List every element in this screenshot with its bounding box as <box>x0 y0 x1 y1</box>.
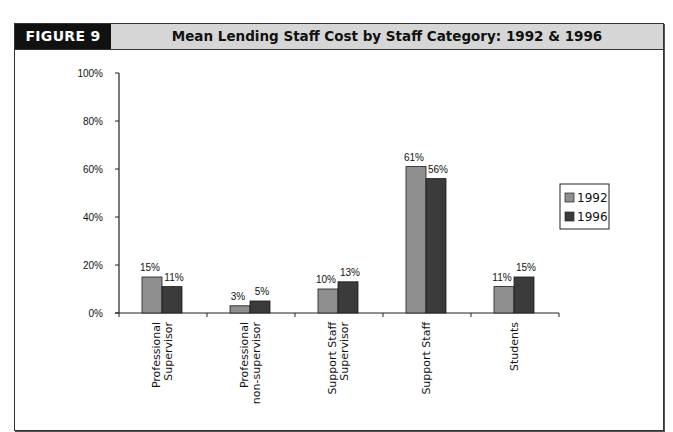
data-label: 3% <box>231 291 246 302</box>
y-tick-label: 80% <box>83 116 103 127</box>
bar-1992 <box>230 306 250 313</box>
legend-label-1996: 1996 <box>577 210 608 224</box>
legend-swatch-1992 <box>565 193 574 202</box>
x-category-label: Support Staff <box>420 322 433 395</box>
legend-swatch-1996 <box>565 212 574 221</box>
bar-1996 <box>426 179 446 313</box>
y-tick-label: 40% <box>83 212 103 223</box>
bar-1996 <box>250 301 270 313</box>
data-label: 15% <box>140 262 160 273</box>
svg-text:non-supervisor: non-supervisor <box>250 322 263 405</box>
svg-text:Support Staff: Support Staff <box>420 322 433 395</box>
x-category-label: Professionalnon-supervisor <box>238 322 263 405</box>
svg-text:Students: Students <box>508 322 521 371</box>
data-label: 15% <box>516 262 536 273</box>
bar-1996 <box>338 282 358 313</box>
x-category-label: Students <box>508 322 521 371</box>
data-label: 13% <box>340 267 360 278</box>
legend-label-1992: 1992 <box>577 191 608 205</box>
chart-category-labels: ProfessionalSupervisorProfessionalnon-su… <box>150 322 521 405</box>
bar-1996 <box>514 277 534 313</box>
chart-data-labels: 15%11%3%5%10%13%61%56%11%15% <box>140 152 536 302</box>
bar-1992 <box>142 277 162 313</box>
data-label: 56% <box>428 164 448 175</box>
x-category-label: Support StaffSupervisor <box>326 322 351 395</box>
bar-chart: 0%20%40%60%80%100% 15%11%3%5%10%13%61%56… <box>0 0 673 432</box>
chart-legend: 19921996 <box>560 184 609 229</box>
data-label: 10% <box>316 274 336 285</box>
svg-text:Supervisor: Supervisor <box>162 322 175 381</box>
data-label: 61% <box>404 152 424 163</box>
bar-1992 <box>406 167 426 313</box>
y-tick-label: 20% <box>83 260 103 271</box>
x-category-label: ProfessionalSupervisor <box>150 322 175 389</box>
bar-1992 <box>494 287 514 313</box>
data-label: 11% <box>164 272 183 283</box>
y-tick-label: 60% <box>83 164 103 175</box>
svg-text:Supervisor: Supervisor <box>338 322 351 381</box>
y-tick-label: 0% <box>89 308 104 319</box>
y-tick-label: 100% <box>77 68 103 79</box>
data-label: 5% <box>255 286 270 297</box>
chart-bars <box>142 167 534 313</box>
data-label: 11% <box>492 272 511 283</box>
bar-1992 <box>318 289 338 313</box>
bar-1996 <box>162 287 182 313</box>
